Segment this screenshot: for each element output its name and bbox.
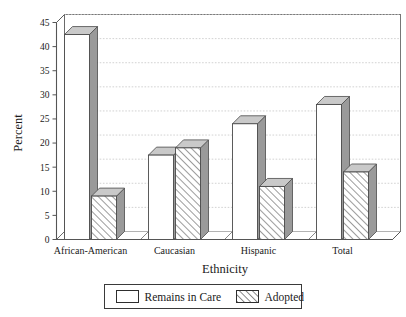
bar-hispanic-adopted xyxy=(260,178,293,239)
y-tick-label: 40 xyxy=(40,42,50,52)
y-tick-label: 5 xyxy=(45,211,50,221)
chart-legend: Remains in CareAdopted xyxy=(105,285,305,309)
bar-chart-figure: 051015202530354045 African-AmericanCauca… xyxy=(0,0,406,317)
y-tick-labels: 051015202530354045 xyxy=(40,18,57,245)
y-tick-label: 15 xyxy=(40,163,50,173)
legend-label-adopted: Adopted xyxy=(265,291,305,304)
y-axis-title: Percent xyxy=(11,114,25,152)
y-tick-label: 25 xyxy=(40,114,50,124)
legend-label-remains-in-care: Remains in Care xyxy=(145,291,222,303)
chart-canvas: 051015202530354045 African-AmericanCauca… xyxy=(0,0,406,317)
legend-swatch-remains-in-care xyxy=(117,291,139,303)
y-tick-label: 10 xyxy=(40,187,50,197)
bar-total-adopted xyxy=(344,164,377,240)
y-tick-label: 45 xyxy=(40,18,50,28)
x-tick-label: Hispanic xyxy=(241,245,277,256)
bar-caucasian-adopted xyxy=(176,140,209,240)
x-tick-label: Total xyxy=(332,245,353,256)
x-tick-label: African-American xyxy=(54,245,127,256)
legend-swatch-adopted xyxy=(237,291,259,303)
y-tick-label: 30 xyxy=(40,90,50,100)
y-tick-label: 35 xyxy=(40,66,50,76)
x-tick-label: Caucasian xyxy=(154,245,195,256)
y-tick-label: 0 xyxy=(45,235,50,245)
y-tick-label: 20 xyxy=(40,138,50,148)
x-axis-title: Ethnicity xyxy=(202,262,249,276)
bar-african-american-adopted xyxy=(92,188,125,239)
